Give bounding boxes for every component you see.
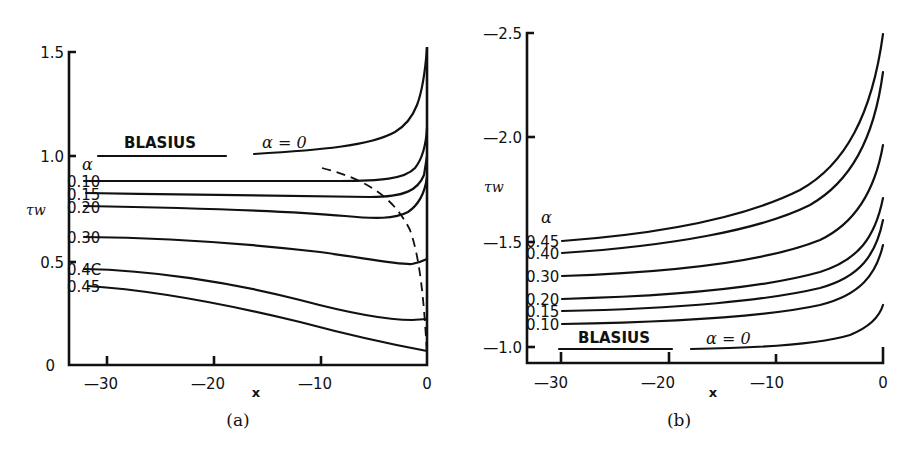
panel-b-ytick-label: —1.0	[483, 339, 522, 357]
panel-b-xtick-label: —10	[750, 374, 784, 392]
panel-a-alpha-label: 0.30	[67, 229, 100, 247]
panel-b-curve-alpha-0.30	[562, 145, 883, 276]
panel-b-ytick-label: —2.5	[483, 25, 522, 43]
figure: 1.5 1.0 0.5 0 —30 —20 —10 0 τw x (a) BLA…	[0, 0, 913, 454]
panel-b-alpha-zero-label: α = 0	[706, 329, 751, 348]
panel-b-alpha-label: 0.40	[526, 245, 559, 263]
panel-b: —2.5 —2.0 —1.5 —1.0 —30 —20 —10 0 τw x (…	[483, 25, 888, 430]
panel-a-alpha-label: 0.20	[67, 199, 100, 217]
panel-a-alpha-header: α	[82, 155, 93, 174]
panel-a-xtick-label: —20	[191, 375, 225, 393]
panel-a-xtick-label: —30	[84, 375, 118, 393]
panel-a-xtick-label: 0	[422, 375, 432, 393]
panel-a-alpha-label: 0.45	[67, 278, 100, 296]
panel-b-xtick-label: —20	[641, 374, 675, 392]
panel-a-ytick-label: 1.0	[40, 148, 64, 166]
panel-b-alpha-label: 0.30	[526, 268, 559, 286]
panel-a-ytick-label: 0	[45, 357, 55, 375]
panel-a-alpha-zero-label: α = 0	[262, 133, 307, 152]
panel-a-alpha-label: 0.4C	[67, 261, 101, 279]
panel-a-xlabel: x	[252, 385, 261, 400]
panel-b-xlabel: x	[709, 385, 718, 400]
panel-a-ytick-label: 0.5	[40, 254, 64, 272]
panel-a-curve-alpha-0.15	[86, 156, 427, 197]
panel-b-caption: (b)	[667, 410, 691, 430]
panel-a-curve-alpha-0.45	[88, 286, 427, 351]
panel-a: 1.5 1.0 0.5 0 —30 —20 —10 0 τw x (a) BLA…	[26, 44, 432, 430]
panel-a-blasius-label: BLASIUS	[124, 134, 196, 152]
panel-a-ylabel: τw	[26, 202, 46, 218]
panel-b-curve-alpha-0.45	[562, 34, 883, 241]
panel-a-curve-alpha-0.30	[84, 237, 427, 264]
panel-b-blasius-label: BLASIUS	[578, 329, 650, 347]
panel-b-axes	[527, 33, 883, 363]
panel-b-xtick-label: 0	[878, 374, 888, 392]
panel-b-alpha-header: α	[541, 208, 552, 227]
panel-b-ytick-label: —2.0	[483, 129, 522, 147]
panel-b-alpha-label: 0.10	[526, 316, 559, 334]
panel-b-xtick-label: —30	[534, 374, 568, 392]
panel-b-ylabel: τw	[484, 179, 504, 195]
panel-a-ytick-label: 1.5	[40, 44, 64, 62]
panel-a-xtick-label: —10	[298, 375, 332, 393]
panel-b-curve-alpha-0.10	[562, 245, 883, 324]
panel-b-ytick-label: —1.5	[483, 234, 522, 252]
panel-a-caption: (a)	[226, 410, 249, 430]
